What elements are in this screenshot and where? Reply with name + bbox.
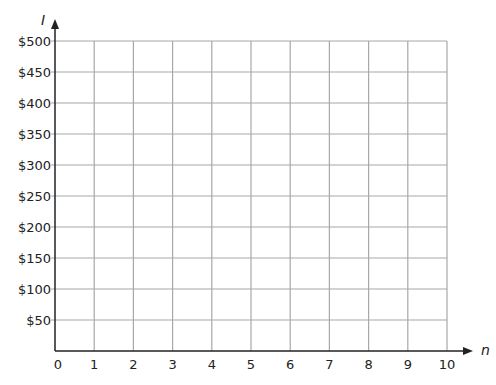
- y-tick-label: $250: [18, 189, 51, 204]
- y-axis-label: I: [41, 12, 45, 28]
- x-tick-label: 10: [439, 357, 456, 372]
- x-tick-label: 1: [90, 357, 98, 372]
- x-tick-label: 9: [404, 357, 412, 372]
- x-tick-label: 6: [286, 357, 294, 372]
- y-tick-label: $350: [18, 127, 51, 142]
- x-tick-label: 5: [247, 357, 255, 372]
- grid-lines: [51, 41, 447, 351]
- x-axis-arrow-icon: [463, 347, 473, 355]
- blank-grid-chart: 012345678910$50$100$150$200$250$300$350$…: [0, 0, 496, 385]
- x-tick-label: 2: [129, 357, 137, 372]
- y-tick-label: $500: [18, 34, 51, 49]
- axes: [51, 19, 473, 355]
- y-tick-label: $450: [18, 65, 51, 80]
- x-tick-label: 4: [208, 357, 216, 372]
- x-tick-label: 0: [54, 357, 62, 372]
- x-tick-label: 3: [168, 357, 176, 372]
- x-tick-label: 8: [364, 357, 372, 372]
- x-axis-label: n: [481, 342, 490, 358]
- y-axis-arrow-icon: [51, 19, 59, 29]
- y-tick-label: $300: [18, 158, 51, 173]
- y-tick-label: $400: [18, 96, 51, 111]
- y-tick-label: $200: [18, 220, 51, 235]
- chart-container: 012345678910$50$100$150$200$250$300$350$…: [0, 0, 496, 385]
- x-tick-label: 7: [325, 357, 333, 372]
- y-tick-label: $100: [18, 282, 51, 297]
- y-tick-label: $50: [26, 313, 51, 328]
- y-tick-label: $150: [18, 251, 51, 266]
- tick-labels: 012345678910$50$100$150$200$250$300$350$…: [18, 12, 490, 372]
